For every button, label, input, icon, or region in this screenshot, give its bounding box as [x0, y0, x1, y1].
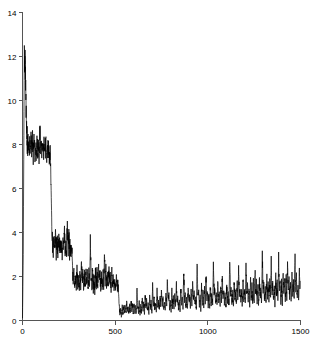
y-tick-label: 12 — [8, 53, 17, 62]
chart-container: 02468101214 050010001500 — [0, 0, 319, 346]
y-tick-label: 10 — [8, 97, 17, 106]
y-tick-label: 8 — [12, 141, 17, 150]
y-tick-label: 0 — [12, 317, 17, 326]
series-line-signal — [23, 45, 301, 318]
line-chart: 02468101214 050010001500 — [0, 0, 319, 346]
y-tick-label: 4 — [12, 229, 17, 238]
y-tick-label: 6 — [12, 185, 17, 194]
y-tick-label: 14 — [8, 9, 17, 18]
data-series-group — [23, 45, 301, 318]
x-tick-label: 1000 — [199, 327, 217, 336]
y-tick-label: 2 — [12, 273, 17, 282]
x-tick-label: 0 — [20, 327, 25, 336]
x-tick-label: 500 — [108, 327, 122, 336]
x-tick-label: 1500 — [292, 327, 310, 336]
y-axis: 02468101214 — [8, 9, 23, 326]
x-axis: 050010001500 — [20, 321, 310, 336]
